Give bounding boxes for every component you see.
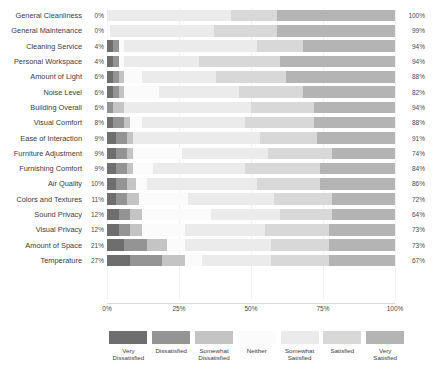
bar-segment (211, 209, 280, 221)
row-label: Amount of Light (0, 72, 85, 81)
row-satisfied-pct: 84% (395, 165, 425, 172)
row-label: Visual Privacy (0, 225, 85, 234)
bar-segment (107, 178, 116, 190)
row-label: Noise Level (0, 88, 85, 97)
stacked-bar (107, 10, 395, 22)
row-label: General Maintenance (0, 26, 85, 35)
x-axis-tick: 50% (244, 305, 257, 312)
bar-segment (245, 163, 320, 175)
row-label: Building Overall (0, 103, 85, 112)
row-satisfied-pct: 100% (395, 12, 425, 19)
row-dissatisfied-pct: 21% (85, 242, 107, 249)
bar-segment (167, 239, 184, 251)
bar-segment (136, 178, 148, 190)
legend-swatch (281, 331, 319, 344)
legend-swatch (195, 331, 233, 344)
chart-row: Air Quality10%86% (0, 176, 440, 191)
legend-label: Dissatisfied (155, 347, 187, 354)
x-axis-tick: 25% (172, 305, 185, 312)
row-dissatisfied-pct: 11% (85, 196, 107, 203)
row-satisfied-pct: 67% (395, 257, 425, 264)
legend-item[interactable]: Somewhat Satisfied (278, 331, 321, 362)
bar-segment (107, 163, 116, 175)
bar-track (107, 209, 395, 221)
stacked-bar (107, 117, 395, 129)
chart-row: Temperature27%67% (0, 253, 440, 268)
legend-item[interactable]: Very Satisfied (364, 331, 407, 362)
chart-row: Noise Level6%82% (0, 84, 440, 99)
row-satisfied-pct: 91% (395, 135, 425, 142)
x-axis-tick: 75% (316, 305, 329, 312)
bar-segment (124, 40, 256, 52)
chart-row: General Cleanliness0%100% (0, 8, 440, 23)
row-dissatisfied-pct: 8% (85, 119, 107, 126)
bar-segment (239, 86, 302, 98)
row-satisfied-pct: 88% (395, 119, 425, 126)
bar-segment (317, 132, 395, 144)
bar-segment (107, 224, 119, 236)
bar-segment (107, 209, 119, 221)
legend-label: Very Satisfied (373, 347, 397, 362)
legend-item[interactable]: Satisfied (321, 331, 364, 362)
legend-item[interactable]: Somewhat Dissatisfied (193, 331, 236, 362)
row-label: Colors and Textures (0, 195, 85, 204)
bar-segment (277, 10, 395, 22)
bar-segment (107, 239, 124, 251)
legend-label: Neither (247, 347, 267, 354)
bar-segment (124, 71, 141, 83)
stacked-bar (107, 148, 395, 160)
bar-track (107, 255, 395, 267)
bar-track (107, 56, 395, 68)
chart-row: Visual Comfort8%88% (0, 115, 440, 130)
bar-segment (113, 102, 125, 114)
bar-segment (116, 163, 128, 175)
stacked-bar (107, 86, 395, 98)
row-dissatisfied-pct: 12% (85, 211, 107, 218)
chart-row: Cleaning Service4%94% (0, 39, 440, 54)
bar-segment (274, 193, 332, 205)
bar-track (107, 71, 395, 83)
chart-row: Personal Workspace4%94% (0, 54, 440, 69)
stacked-bar (107, 40, 395, 52)
stacked-bar (107, 163, 395, 175)
legend-swatch (366, 331, 404, 344)
legend-item[interactable]: Dissatisfied (150, 331, 193, 362)
bar-track (107, 239, 395, 251)
legend-label: Somewhat Satisfied (285, 347, 314, 362)
bar-track (107, 86, 395, 98)
row-satisfied-pct: 88% (395, 73, 425, 80)
row-label: Personal Workspace (0, 57, 85, 66)
stacked-bar (107, 193, 395, 205)
legend-item[interactable]: Neither (235, 331, 278, 362)
legend-item[interactable]: Very Dissatisfied (107, 331, 150, 362)
row-dissatisfied-pct: 4% (85, 43, 107, 50)
x-axis: 0%25%50%75%100% (107, 303, 395, 315)
chart-row: Colors and Textures11%72% (0, 192, 440, 207)
bar-segment (251, 102, 314, 114)
chart-rows: General Cleanliness0%100%General Mainten… (0, 8, 440, 268)
stacked-bar (107, 132, 395, 144)
bar-segment (133, 148, 182, 160)
chart-row: General Maintenance0%99% (0, 23, 440, 38)
bar-segment (142, 117, 246, 129)
bar-track (107, 25, 395, 37)
stacked-bar (107, 25, 395, 37)
bar-segment (116, 132, 128, 144)
legend-swatch (323, 331, 361, 344)
bar-segment (116, 193, 128, 205)
bar-segment (280, 209, 332, 221)
bar-segment (320, 163, 395, 175)
bar-segment (182, 148, 268, 160)
row-dissatisfied-pct: 9% (85, 150, 107, 157)
bar-segment (185, 239, 271, 251)
chart-row: Furniture Adjustment9%74% (0, 146, 440, 161)
bar-segment (124, 102, 251, 114)
row-satisfied-pct: 74% (395, 150, 425, 157)
bar-segment (257, 178, 320, 190)
bar-segment (130, 117, 142, 129)
bar-segment (260, 132, 318, 144)
bar-track (107, 10, 395, 22)
bar-segment (124, 86, 159, 98)
bar-segment (268, 148, 331, 160)
bar-segment (188, 193, 274, 205)
